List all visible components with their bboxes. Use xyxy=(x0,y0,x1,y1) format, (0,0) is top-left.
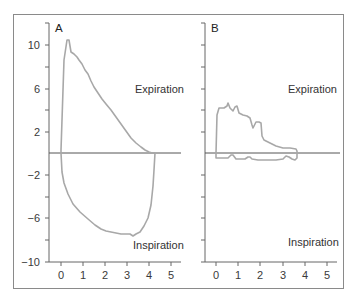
panel-a-y-tick-label: 2 xyxy=(34,126,40,138)
panel-a-x-tick-label: 2 xyxy=(102,269,108,281)
panel-a-x-tick-label: 3 xyxy=(124,269,130,281)
panel-b-x-tick-label: 4 xyxy=(302,269,308,281)
panel-b-x-tick-label: 1 xyxy=(235,269,241,281)
panel-a-inspiration-label: Inspiration xyxy=(133,239,184,251)
chart-canvas: 10 6 2 −2 −6 −10 0 1 2 3 4 5 A Expiratio… xyxy=(0,0,355,300)
panel-b-inspiration-label: Inspiration xyxy=(288,236,339,248)
panel-a-x-tick-label: 0 xyxy=(58,269,64,281)
panel-a-y-tick-label: −10 xyxy=(21,256,40,268)
panel-b: 0 1 2 3 4 5 B Expiration Inspiration xyxy=(201,22,340,281)
panel-a-y-tick-label: −2 xyxy=(27,169,40,181)
panel-a-y-tick-label: −6 xyxy=(27,212,40,224)
panel-a-inspiration-curve xyxy=(61,153,155,236)
panel-b-x-tick-label: 3 xyxy=(280,269,286,281)
panel-b-x-tick-label: 2 xyxy=(257,269,263,281)
panel-b-expiration-label: Expiration xyxy=(288,83,337,95)
panel-b-x-tick-label: 0 xyxy=(213,269,219,281)
panel-b-x-ticks xyxy=(216,262,327,266)
panel-a-x-tick-label: 1 xyxy=(80,269,86,281)
panel-a-expiration-curve xyxy=(61,40,155,153)
panel-a-y-tick-label: 6 xyxy=(34,83,40,95)
panel-a-x-tick-label: 4 xyxy=(146,269,152,281)
panel-a-x-tick-label: 5 xyxy=(168,269,174,281)
panel-b-label: B xyxy=(211,22,219,34)
panel-b-expiration-curve xyxy=(216,103,297,153)
panel-b-inspiration-curve xyxy=(216,153,297,160)
panel-b-y-ticks xyxy=(201,23,205,262)
panel-a-x-ticks xyxy=(61,262,171,266)
panel-a-y-ticks xyxy=(45,23,49,262)
panel-a-expiration-label: Expiration xyxy=(135,83,184,95)
panel-a-y-tick-label: 10 xyxy=(28,39,40,51)
panel-a-label: A xyxy=(55,22,63,34)
panel-b-x-tick-label: 5 xyxy=(324,269,330,281)
panel-a: 10 6 2 −2 −6 −10 0 1 2 3 4 5 A Expiratio… xyxy=(21,22,184,281)
